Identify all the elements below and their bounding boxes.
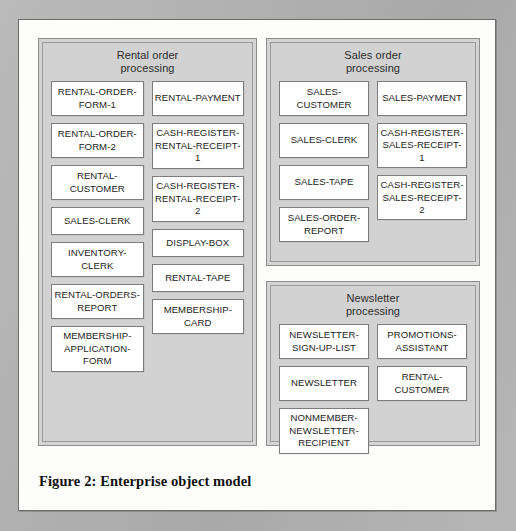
group-newsletter-processing: Newsletter processing NEWSLETTER-SIGN-UP…: [266, 281, 480, 446]
entity-newsletter[interactable]: NEWSLETTER: [279, 366, 369, 401]
group-rental-column-right: RENTAL-PAYMENT CASH-REGISTER-RENTAL-RECE…: [152, 81, 245, 372]
group-sales-title-line1: Sales order: [271, 49, 475, 62]
entity-sales-clerk[interactable]: SALES-CLERK: [279, 123, 369, 158]
entity-cash-register-rental-receipt-1[interactable]: CASH-REGISTER-RENTAL-RECEIPT-1: [152, 123, 245, 169]
group-rental-inner: Rental order processing RENTAL-ORDER-FOR…: [42, 42, 253, 442]
entity-promotions-assistant[interactable]: PROMOTIONS-ASSISTANT: [377, 324, 467, 359]
entity-rental-customer[interactable]: RENTAL-CUSTOMER: [51, 165, 144, 200]
entity-sales-clerk[interactable]: SALES-CLERK: [51, 207, 144, 235]
group-rental-title: Rental order processing: [43, 43, 252, 75]
group-sales-column-right: SALES-PAYMENT CASH-REGISTER-SALES-RECEIP…: [377, 81, 467, 242]
entity-cash-register-sales-receipt-1[interactable]: CASH-REGISTER-SALES-RECEIPT-1: [377, 123, 467, 168]
entity-rental-order-form-1[interactable]: RENTAL-ORDER-FORM-1: [51, 81, 144, 116]
entity-display-box[interactable]: DISPLAY-BOX: [152, 229, 245, 257]
entity-sales-payment[interactable]: SALES-PAYMENT: [377, 81, 467, 116]
entity-membership-card[interactable]: MEMBERSHIP-CARD: [152, 299, 245, 334]
figure-frame: Rental order processing RENTAL-ORDER-FOR…: [18, 19, 496, 511]
group-rental-order-processing: Rental order processing RENTAL-ORDER-FOR…: [38, 38, 257, 446]
figure-caption: Figure 2: Enterprise object model: [39, 473, 251, 490]
entity-newsletter-sign-up-list[interactable]: NEWSLETTER-SIGN-UP-LIST: [279, 324, 369, 359]
group-rental-columns: RENTAL-ORDER-FORM-1 RENTAL-ORDER-FORM-2 …: [43, 75, 252, 380]
entity-inventory-clerk[interactable]: INVENTORY-CLERK: [51, 242, 144, 277]
group-newsletter-columns: NEWSLETTER-SIGN-UP-LIST NEWSLETTER NONME…: [271, 318, 475, 462]
group-newsletter-title-line1: Newsletter: [271, 292, 475, 305]
entity-cash-register-sales-receipt-2[interactable]: CASH-REGISTER-SALES-RECEIPT-2: [377, 175, 467, 220]
group-sales-title-line2: processing: [271, 62, 475, 75]
group-newsletter-column-left: NEWSLETTER-SIGN-UP-LIST NEWSLETTER NONME…: [279, 324, 369, 454]
entity-rental-order-form-2[interactable]: RENTAL-ORDER-FORM-2: [51, 123, 144, 158]
group-sales-column-left: SALES-CUSTOMER SALES-CLERK SALES-TAPE SA…: [279, 81, 369, 242]
group-rental-title-line2: processing: [43, 62, 252, 75]
group-sales-inner: Sales order processing SALES-CUSTOMER SA…: [270, 42, 476, 262]
group-sales-columns: SALES-CUSTOMER SALES-CLERK SALES-TAPE SA…: [271, 75, 475, 250]
group-rental-title-line1: Rental order: [43, 49, 252, 62]
group-rental-column-left: RENTAL-ORDER-FORM-1 RENTAL-ORDER-FORM-2 …: [51, 81, 144, 372]
entity-rental-tape[interactable]: RENTAL-TAPE: [152, 264, 245, 292]
entity-rental-orders-report[interactable]: RENTAL-ORDERS-REPORT: [51, 284, 144, 319]
group-newsletter-title: Newsletter processing: [271, 286, 475, 318]
group-newsletter-inner: Newsletter processing NEWSLETTER-SIGN-UP…: [270, 285, 476, 442]
entity-sales-tape[interactable]: SALES-TAPE: [279, 165, 369, 200]
group-sales-title: Sales order processing: [271, 43, 475, 75]
entity-membership-application-form[interactable]: MEMBERSHIP-APPLICATION-FORM: [51, 326, 144, 372]
group-newsletter-column-right: PROMOTIONS-ASSISTANT RENTAL-CUSTOMER: [377, 324, 467, 454]
entity-nonmember-newsletter-recipient[interactable]: NONMEMBER-NEWSLETTER-RECIPIENT: [279, 408, 369, 454]
entity-rental-customer-newsletter[interactable]: RENTAL-CUSTOMER: [377, 366, 467, 401]
entity-cash-register-rental-receipt-2[interactable]: CASH-REGISTER-RENTAL-RECEIPT-2: [152, 176, 245, 222]
entity-sales-order-report[interactable]: SALES-ORDER-REPORT: [279, 207, 369, 242]
entity-sales-customer[interactable]: SALES-CUSTOMER: [279, 81, 369, 116]
group-newsletter-title-line2: processing: [271, 305, 475, 318]
entity-rental-payment[interactable]: RENTAL-PAYMENT: [152, 81, 245, 116]
enterprise-object-model-diagram: Rental order processing RENTAL-ORDER-FOR…: [19, 20, 497, 454]
group-sales-order-processing: Sales order processing SALES-CUSTOMER SA…: [266, 38, 480, 266]
